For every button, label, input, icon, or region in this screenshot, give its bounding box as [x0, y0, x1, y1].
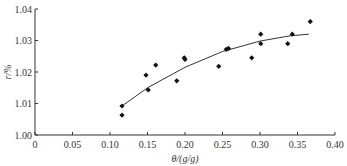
x-tick-label: 0.40 [326, 139, 344, 150]
x-axis-title: θ/(g/g) [171, 153, 199, 165]
axis-labels: 00.050.100.150.200.250.300.350.401.001.0… [2, 4, 344, 166]
x-tick-label: 0 [33, 139, 38, 150]
data-point-marker [258, 32, 263, 37]
fit-line [122, 34, 309, 106]
x-tick-label: 0.35 [289, 139, 307, 150]
data-point-marker [285, 41, 290, 46]
y-tick-label: 1.04 [15, 4, 33, 15]
scatter-chart: 00.050.100.150.200.250.300.350.401.001.0… [0, 0, 347, 165]
y-tick-label: 1.02 [15, 67, 33, 78]
x-tick-label: 0.30 [251, 139, 269, 150]
data-point-marker [153, 62, 158, 67]
data-point-marker [308, 19, 313, 24]
x-tick-label: 0.15 [139, 139, 157, 150]
axes [35, 9, 335, 135]
y-tick-label: 1.03 [15, 35, 33, 46]
x-tick-label: 0.05 [64, 139, 82, 150]
data-points [119, 19, 312, 118]
data-point-marker [174, 78, 179, 83]
y-axis-title: r/% [2, 65, 13, 80]
y-tick-label: 1.00 [15, 130, 33, 141]
data-point-marker [143, 73, 148, 78]
data-point-marker [249, 55, 254, 60]
x-tick-label: 0.25 [214, 139, 232, 150]
data-point-marker [216, 64, 221, 69]
x-tick-label: 0.10 [101, 139, 119, 150]
data-point-marker [119, 113, 124, 118]
y-tick-label: 1.01 [15, 98, 33, 109]
x-tick-label: 0.20 [176, 139, 194, 150]
fit-curve [122, 34, 309, 106]
